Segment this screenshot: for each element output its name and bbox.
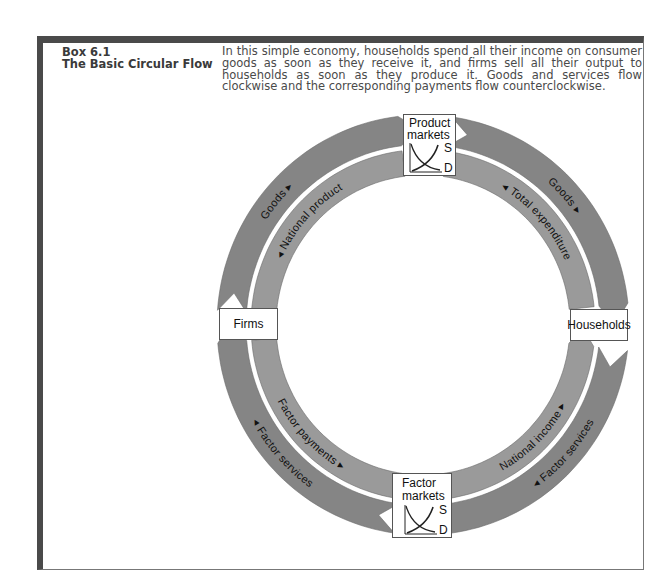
national-income-arrow — [438, 328, 593, 500]
supply-demand-icon — [408, 142, 442, 174]
factor-markets-line1: Factor — [402, 477, 436, 489]
demand-label: D — [444, 162, 453, 174]
circular-flow-diagram: Goods ▸Goods ▸◂ Factor services◂ Factor … — [0, 0, 669, 576]
households-node: Households — [570, 309, 628, 341]
demand-label: D — [439, 524, 448, 536]
national-product-arrow — [251, 151, 405, 331]
supply-label: S — [444, 142, 452, 154]
firms-node: Firms — [219, 308, 278, 340]
product-markets-node: Product markets S D — [403, 114, 456, 176]
factor-markets-node: Factor markets S D — [392, 473, 452, 538]
supply-label: S — [439, 504, 447, 516]
product-markets-line2: markets — [407, 129, 450, 141]
supply-demand-icon — [403, 504, 437, 536]
factor-markets-line2: markets — [402, 490, 445, 502]
